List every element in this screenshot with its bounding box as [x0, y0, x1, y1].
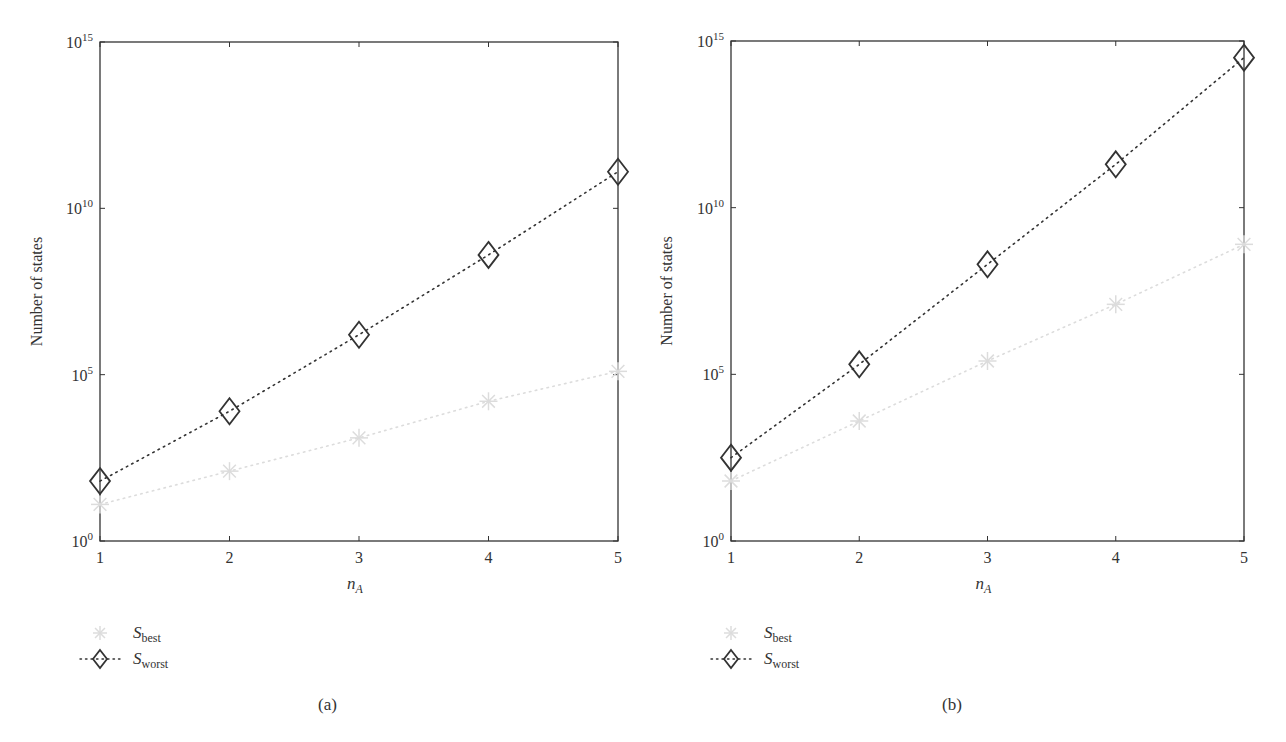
y-tick-label: 105: [703, 363, 725, 383]
x-tick-label: 1: [96, 549, 104, 566]
x-tick-label: 2: [226, 549, 234, 566]
y-tick-label: 100: [703, 530, 725, 550]
y-axis-label: Number of states: [658, 236, 675, 345]
x-tick-label: 5: [1240, 549, 1248, 566]
y-tick-label: 105: [72, 364, 94, 384]
legend-item-best: Sbest: [93, 623, 161, 645]
series-s-best: [91, 362, 627, 513]
series-s-worst: [721, 45, 1254, 471]
y-tick-label: 1015: [697, 30, 725, 50]
legend-label: Sworst: [764, 649, 800, 671]
y-tick-label: 1010: [697, 197, 725, 217]
legend: SbestSworst: [711, 623, 800, 671]
legend-label: Sbest: [133, 623, 161, 645]
y-tick-label: 1010: [66, 197, 94, 217]
plot-frame: [100, 42, 618, 541]
legend: SbestSworst: [80, 623, 169, 671]
legend-item-worst: Sworst: [711, 649, 800, 671]
chart-panel-b: 1234510010510101015Number of statesnASbe…: [658, 30, 1254, 671]
x-axis-label: nA: [976, 574, 993, 596]
x-tick-label: 1: [727, 549, 735, 566]
y-tick-label: 1015: [66, 31, 94, 51]
panel-b-caption: (b): [942, 695, 962, 715]
x-tick-label: 2: [855, 549, 863, 566]
legend-item-worst: Sworst: [80, 649, 169, 671]
figure: 1234510010510101015Number of statesnASbe…: [0, 0, 1286, 742]
legend-label: Sworst: [133, 649, 169, 671]
y-axis-label: Number of states: [28, 237, 45, 346]
series-s-best: [722, 235, 1253, 490]
x-axis-label: nA: [347, 574, 364, 596]
chart-panel-a: 1234510010510101015Number of statesnASbe…: [28, 31, 628, 671]
legend-label: Sbest: [764, 623, 792, 645]
x-tick-label: 3: [355, 549, 363, 566]
x-tick-label: 4: [1112, 549, 1120, 566]
x-tick-label: 4: [485, 549, 493, 566]
x-tick-label: 5: [614, 549, 622, 566]
y-tick-label: 100: [72, 530, 94, 550]
plot-frame: [731, 41, 1244, 541]
x-tick-label: 3: [984, 549, 992, 566]
panel-a-caption: (a): [318, 695, 337, 715]
legend-item-best: Sbest: [724, 623, 792, 645]
